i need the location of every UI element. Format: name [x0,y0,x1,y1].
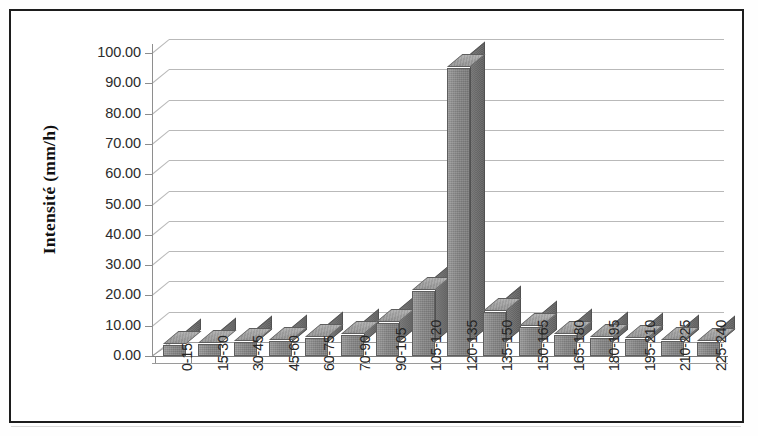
bar-120-135[interactable] [447,54,470,356]
chart-frame: 0.0010.0020.0030.0040.0050.0060.0070.008… [9,9,744,423]
category-label-60-75: 60-75 [321,335,337,371]
figure-container: 0.0010.0020.0030.0040.0050.0060.0070.008… [0,0,758,436]
category-label-45-60: 45-60 [286,335,302,371]
category-label-150-165: 150-165 [535,320,551,371]
gridline-riser-30 [152,251,170,266]
gridline-riser-60 [152,160,170,175]
bar-side-face [470,42,485,342]
gridline-riser-100 [152,39,170,54]
category-label-120-135: 120-135 [464,320,480,371]
category-label-135-150: 135-150 [499,320,515,371]
category-label-195-210: 195-210 [642,320,658,371]
y-axis-label: 60.00 [71,165,141,181]
y-axis-label: 0.00 [71,347,141,363]
gridline-riser-40 [152,221,170,236]
y-axis-label: 10.00 [71,317,141,333]
y-axis-label: 100.00 [71,44,141,60]
bar-front-face [447,68,470,356]
y-axis-label: 20.00 [71,286,141,302]
y-axis-label: 50.00 [71,196,141,212]
gridline-riser-50 [152,191,170,206]
category-label-15-30: 15-30 [215,335,231,371]
scan-artifact-line [11,426,741,427]
plot-area: 0.0010.0020.0030.0040.0050.0060.0070.008… [11,11,746,425]
category-label-165-180: 165-180 [571,320,587,371]
category-label-70-90: 70-90 [357,335,373,371]
y-axis-title: Intensité (mm/h) [39,90,60,290]
category-label-180-195: 180-195 [606,320,622,371]
y-axis-label: 70.00 [71,135,141,151]
y-axis-label: 80.00 [71,105,141,121]
value-axis-line [152,44,153,356]
category-label-30-45: 30-45 [250,335,266,371]
category-label-210-225: 210-225 [677,320,693,371]
y-axis-label: 40.00 [71,226,141,242]
category-label-225-240: 225-240 [713,320,729,371]
gridline-100 [169,39,724,40]
gridline-riser-80 [152,100,170,115]
gridline-riser-20 [152,282,170,297]
gridline-riser-90 [152,69,170,84]
y-axis-label: 30.00 [71,256,141,272]
category-label-0-15: 0-15 [179,343,195,371]
category-tick [155,356,156,363]
category-label-90-105: 90-105 [393,327,409,371]
gridline-riser-10 [152,312,170,327]
y-axis-label: 90.00 [71,74,141,90]
gridline-riser-70 [152,130,170,145]
category-label-105-120: 105-120 [428,320,444,371]
